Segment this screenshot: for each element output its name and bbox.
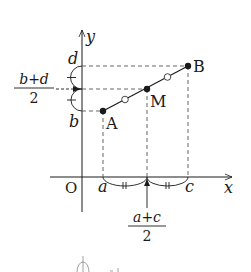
label-a-point: A — [105, 114, 118, 133]
equal-mark-mb — [164, 74, 171, 81]
equal-mark-am — [122, 96, 129, 103]
arc-left-x — [103, 177, 147, 186]
label-b-point: B — [193, 57, 205, 76]
y-tick-mid-denominator: 2 — [30, 90, 39, 106]
next-figure-fragment — [77, 256, 118, 272]
x-tick-mid-numerator: a+c — [133, 209, 161, 225]
x-tick-c: c — [185, 177, 194, 196]
x-axis-label: x — [224, 178, 233, 197]
x-tick-a: a — [98, 177, 108, 196]
y-tick-b: b — [69, 112, 79, 131]
label-m-point: M — [150, 92, 166, 111]
y-equal-arcs — [67, 66, 82, 111]
arc-right-x — [147, 177, 188, 186]
y-tick-mid-numerator: b+d — [19, 71, 49, 87]
x-tick-mid-denominator: 2 — [143, 228, 152, 244]
y-axis-label: y — [85, 27, 96, 46]
origin-label: O — [65, 179, 77, 197]
x-equal-arcs — [103, 177, 188, 189]
projection-lines — [82, 66, 188, 177]
midpoint-diagram: A M B y x O d b b+d 2 a c a+c 2 — [0, 0, 251, 272]
point-b — [185, 63, 191, 69]
y-tick-d: d — [68, 49, 78, 68]
